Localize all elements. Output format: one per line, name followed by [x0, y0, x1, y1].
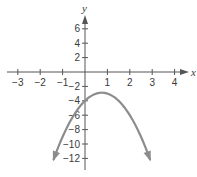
x-tick-label: −1 — [57, 77, 69, 88]
y-tick-label: −8 — [69, 124, 81, 135]
y-tick-label: −4 — [69, 95, 81, 106]
x-tick-label: 1 — [105, 77, 111, 88]
x-axis-label: x — [190, 66, 196, 78]
y-axis-arrow-icon — [82, 15, 88, 24]
y-tick-label: 4 — [74, 38, 80, 49]
y-axis-label: y — [81, 2, 87, 14]
plot-area: −3−2−11234642−2−4−6−8−10−12 x y — [0, 0, 197, 177]
x-tick-label: 4 — [172, 77, 178, 88]
x-tick-label: −3 — [12, 77, 24, 88]
left-arrow-icon — [53, 150, 60, 161]
x-tick-label: −2 — [34, 77, 46, 88]
y-tick-label: 6 — [74, 23, 80, 34]
x-tick-label: 2 — [127, 77, 133, 88]
x-axis-arrow-icon — [180, 69, 189, 75]
y-tick-label: −10 — [63, 139, 80, 150]
y-tick-label: 2 — [74, 52, 80, 63]
curve — [53, 93, 151, 161]
parabola-graph: −3−2−11234642−2−4−6−8−10−12 x y — [0, 0, 197, 177]
right-arrow-icon — [144, 150, 151, 161]
x-tick-label: 3 — [149, 77, 155, 88]
y-tick-label: −2 — [69, 81, 81, 92]
y-tick-label: −12 — [63, 153, 80, 164]
